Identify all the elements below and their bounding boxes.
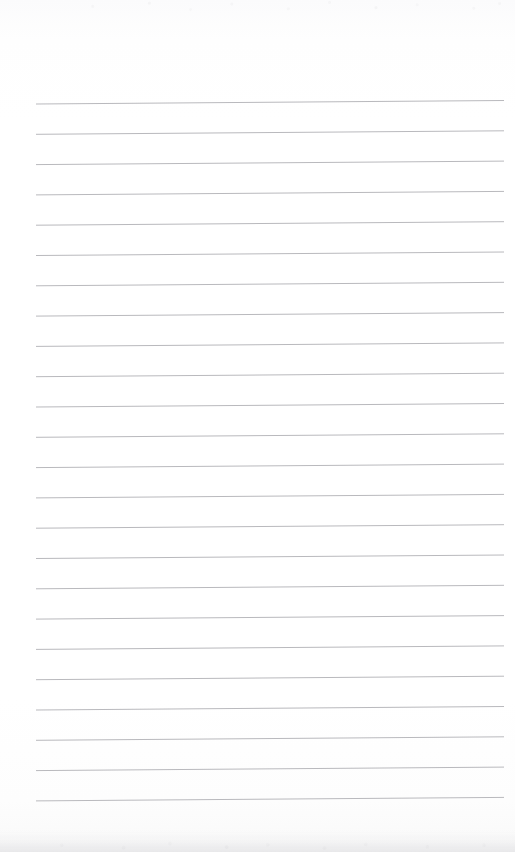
ruled-line [36,343,504,347]
ruled-line [36,555,504,559]
ruled-line [36,252,504,256]
ruled-line [36,161,504,165]
ruled-line [36,373,504,377]
ruled-line [36,101,504,105]
ruled-line [36,646,504,650]
ruled-line [36,282,504,286]
ruled-lines-layer [0,0,515,852]
ruled-lines-svg [0,0,515,852]
ruled-line [36,494,504,498]
ruled-line [36,737,504,741]
scanned-page [0,0,515,852]
ruled-line [36,434,504,438]
ruled-line [36,616,504,620]
ruled-line [36,131,504,135]
ruled-line [36,404,504,408]
ruled-line [36,797,504,801]
ruled-line [36,191,504,195]
ruled-line [36,525,504,529]
ruled-line [36,676,504,680]
ruled-line [36,585,504,589]
ruled-line [36,767,504,771]
ruled-line [36,464,504,468]
ruled-line [36,313,504,317]
ruled-line [36,707,504,711]
ruled-line [36,222,504,226]
